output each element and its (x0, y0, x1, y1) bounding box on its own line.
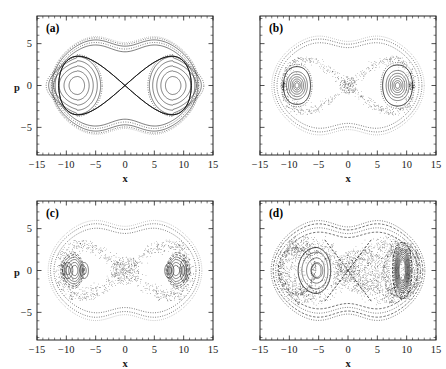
x-tick-label: 0 (345, 344, 350, 355)
x-tick-label: −15 (29, 159, 45, 170)
x-tick-label: −5 (313, 344, 324, 355)
x-tick-label: −15 (29, 344, 45, 355)
x-tick-label: 10 (178, 159, 189, 170)
panel-c: −15−10−5051015x50−5p(c) (0, 185, 223, 369)
x-tick-label: −5 (90, 344, 101, 355)
x-tick-label: 10 (178, 344, 189, 355)
x-tick-label: −5 (90, 159, 101, 170)
y-tick-label: −5 (21, 122, 32, 133)
panel-b: −15−10−5051015x(b) (223, 0, 446, 184)
x-tick-label: 0 (345, 159, 350, 170)
panel-c-plot: −15−10−5051015x50−5p(c) (0, 185, 223, 369)
x-tick-label: 5 (375, 344, 380, 355)
x-tick-label: −15 (252, 344, 268, 355)
phase-space-figure: −15−10−5051015x50−5p(a) −15−10−5051015x(… (0, 0, 446, 369)
panel-tag: (c) (46, 207, 59, 220)
y-tick-label: 5 (27, 38, 32, 49)
x-tick-label: −15 (252, 159, 268, 170)
x-tick-label: 0 (122, 344, 127, 355)
x-tick-label: 15 (208, 344, 219, 355)
panel-tag: (d) (269, 207, 283, 220)
y-tick-label: −5 (21, 307, 32, 318)
x-tick-label: 5 (152, 344, 157, 355)
panel-a-plot: −15−10−5051015x50−5p(a) (0, 0, 223, 184)
x-axis-label: x (122, 358, 128, 369)
x-tick-label: 15 (431, 344, 442, 355)
panel-tag: (b) (269, 22, 283, 35)
y-tick-label: 0 (27, 265, 32, 276)
x-tick-label: 10 (401, 159, 412, 170)
panel-d: −15−10−5051015x(d) (223, 185, 446, 369)
x-tick-label: 5 (152, 159, 157, 170)
y-axis-label: p (14, 82, 20, 93)
x-axis-label: x (345, 173, 351, 184)
y-tick-label: 0 (27, 80, 32, 91)
x-tick-label: 0 (122, 159, 127, 170)
x-tick-label: −5 (313, 159, 324, 170)
x-tick-label: 5 (375, 159, 380, 170)
x-tick-label: 15 (208, 159, 219, 170)
x-tick-label: −10 (58, 159, 74, 170)
x-axis-label: x (345, 358, 351, 369)
x-tick-label: −10 (281, 344, 297, 355)
panel-tag: (a) (46, 22, 60, 35)
panel-a: −15−10−5051015x50−5p(a) (0, 0, 223, 184)
x-tick-label: 15 (431, 159, 442, 170)
x-tick-label: 10 (401, 344, 412, 355)
panel-d-plot: −15−10−5051015x(d) (223, 185, 446, 369)
x-tick-label: −10 (281, 159, 297, 170)
x-tick-label: −10 (58, 344, 74, 355)
x-axis-label: x (122, 173, 128, 184)
y-axis-label: p (14, 267, 20, 278)
y-tick-label: 5 (27, 223, 32, 234)
panel-b-plot: −15−10−5051015x(b) (223, 0, 446, 184)
